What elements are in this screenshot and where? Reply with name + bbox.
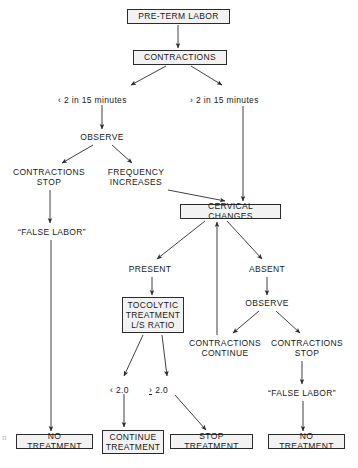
node-contractions-stop-left: CONTRACTIONS STOP <box>8 166 90 188</box>
node-false-labor-right: “FALSE LABOR” <box>261 387 343 399</box>
node-frequency-increases: FREQUENCY INCREASES <box>100 166 172 188</box>
node-stop-treatment: STOP TREATMENT <box>170 434 253 449</box>
node-present: PRESENT <box>121 263 179 275</box>
scan-artifact-mark: n <box>2 432 11 441</box>
edge-label-lt-2-in-15-minutes: ‹ 2 in 15 minutes <box>58 95 127 105</box>
node-false-labor-left: “FALSE LABOR” <box>11 226 93 238</box>
edge-ge20-to-stoptreat <box>175 395 206 430</box>
node-contractions-continue: CONTRACTIONS CONTINUE <box>186 337 264 359</box>
node-tocolytic-treatment: TOCOLYTIC TREATMENT L/S RATIO <box>122 297 184 333</box>
node-no-treatment-left: NO TREATMENT <box>16 434 93 449</box>
node-absent: ABSENT <box>242 263 292 275</box>
greater-equal-icon: › <box>149 386 152 395</box>
node-observe-left: OBSERVE <box>72 131 132 143</box>
edge-tocolytic-to-lt20 <box>124 335 143 376</box>
node-contractions-stop-right: CONTRACTIONS STOP <box>266 337 348 359</box>
node-contractions: CONTRACTIONS <box>133 50 227 65</box>
node-cervical-changes: CERVICAL CHANGES <box>180 204 281 219</box>
edge-label-ge-2-0: ›2.0 <box>149 385 168 395</box>
edge-frequency-to-cervical <box>168 190 225 201</box>
edge-observe2-to-stop <box>276 311 300 333</box>
edge-label-gt-2-in-15-minutes: › 2 in 15 minutes <box>190 95 259 105</box>
node-continue-treatment: CONTINUE TREATMENT <box>102 430 164 454</box>
edge-label-lt-2-0: ‹ 2.0 <box>110 385 129 395</box>
edge-observe2-to-continue <box>233 311 259 333</box>
edge-label-ge-2-0-value: 2.0 <box>155 385 168 395</box>
edge-cervical-to-absent <box>227 221 262 259</box>
node-observe-right: OBSERVE <box>237 297 297 309</box>
node-no-treatment-right: NO TREATMENT <box>268 434 345 449</box>
flowchart-canvas: PRE-TERM LABOR CONTRACTIONS OBSERVE CONT… <box>0 0 358 468</box>
edge-observe-to-contr-stop <box>62 145 93 163</box>
edge-observe-to-frequency <box>112 145 132 163</box>
edge-tocolytic-to-ge20 <box>162 335 167 376</box>
edge-cervical-to-present <box>157 221 205 259</box>
edge-contractions-to-lt2 <box>131 66 166 85</box>
node-pre-term-labor: PRE-TERM LABOR <box>127 9 230 24</box>
edge-contractions-to-gt2 <box>191 66 222 85</box>
